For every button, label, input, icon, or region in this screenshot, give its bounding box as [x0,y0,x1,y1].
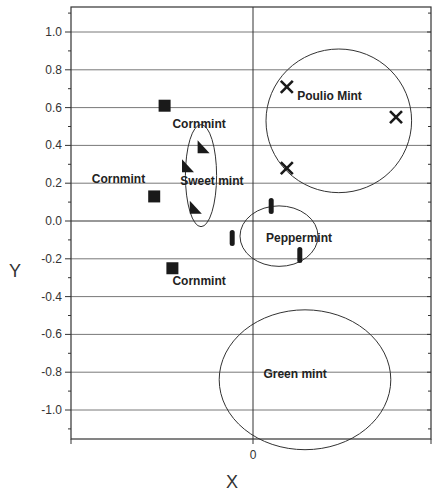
label-peppermint: Peppermint [266,231,332,245]
triangle-marker [182,159,194,172]
square-marker [159,100,171,112]
y-tick-label: -1.0 [41,403,62,417]
y-tick-label: 0.6 [45,101,62,115]
x-marker [281,81,293,93]
y-tick-label: 0.0 [45,214,62,228]
minor-ticks [68,13,431,444]
y-tick-label: -0.2 [41,252,62,266]
triangle-marker [190,201,202,214]
scatter-chart: 1.00.80.60.40.20.0-0.2-0.4-0.6-0.8-1.0 C… [0,0,439,494]
label-cornmint: Cornmint [172,274,225,288]
y-tick-label: 0.4 [45,138,62,152]
group-labels: CornmintCornmintCornmintSweet mintPepper… [92,89,362,381]
y-tick-label: -0.8 [41,365,62,379]
bar-marker [269,198,274,214]
bar-marker [230,230,235,246]
label-green-mint: Green mint [263,367,326,381]
y-tick-label: 1.0 [45,25,62,39]
x-marker [281,162,293,174]
label-cornmint: Cornmint [172,117,225,131]
x-marker [390,111,402,123]
plot-frame [71,7,431,439]
y-tick-label: 0.8 [45,63,62,77]
y-tick-label: -0.4 [41,290,62,304]
label-cornmint: Cornmint [92,172,145,186]
square-marker [148,190,160,202]
label-sweet-mint: Sweet mint [180,174,243,188]
bar-marker [297,247,302,263]
square-marker [166,262,178,274]
y-tick-label: 0.2 [45,176,62,190]
x-tick-zero: 0 [250,448,257,462]
gridlines [71,32,431,410]
label-poulio-mint: Poulio Mint [297,89,362,103]
x-axis-title: X [226,472,238,492]
y-tick-label: -0.6 [41,327,62,341]
y-axis-title: Y [9,261,21,281]
triangle-marker [198,140,210,153]
ellipse-poulio-mint [266,49,412,193]
